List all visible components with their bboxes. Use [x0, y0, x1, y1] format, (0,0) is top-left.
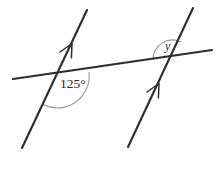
geometry-figure: 125° y: [0, 0, 218, 169]
angle-label-125: 125°: [60, 76, 86, 91]
parallel-line-right: [128, 8, 193, 147]
geometry-diagram-canvas: 125° y: [0, 0, 218, 169]
angle-label-y: y: [164, 39, 171, 53]
transversal-line: [13, 50, 212, 79]
